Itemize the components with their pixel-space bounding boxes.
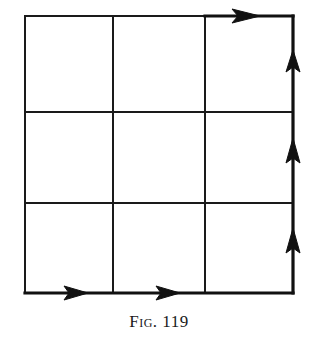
grid-outer-border: [25, 16, 293, 293]
grid-path-diagram: [0, 0, 318, 350]
arrows: [64, 9, 300, 300]
path-highlight: [25, 16, 293, 293]
figure-caption: Fig. 119: [0, 312, 318, 332]
grid: [25, 16, 293, 293]
